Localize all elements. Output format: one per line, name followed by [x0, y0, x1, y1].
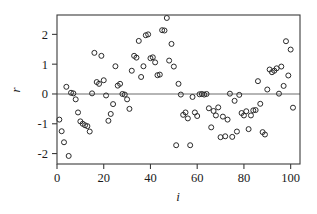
x-tick-label: 60 — [191, 171, 204, 185]
x-tick-label: 80 — [238, 171, 251, 185]
y-tick-label: -1 — [38, 117, 48, 131]
x-axis-title: i — [176, 189, 180, 204]
y-tick-label: 2 — [42, 28, 48, 42]
x-tick-label: 0 — [54, 171, 60, 185]
y-axis-title: r — [8, 87, 23, 93]
y-tick-label: -2 — [38, 147, 48, 161]
residual-scatter-figure: 020406080100 -2-1012 i r — [0, 0, 317, 214]
y-tick-label: 1 — [42, 58, 48, 72]
x-tick-label: 40 — [144, 171, 157, 185]
x-axis-tick-labels: 020406080100 — [54, 171, 300, 185]
y-tick-label: 0 — [42, 87, 48, 101]
y-axis-tick-marks — [52, 34, 57, 153]
x-axis-tick-marks — [57, 164, 291, 169]
x-tick-label: 20 — [97, 171, 110, 185]
x-tick-label: 100 — [281, 171, 300, 185]
y-axis-tick-labels: -2-1012 — [38, 28, 48, 161]
scatter-plot-svg: 020406080100 -2-1012 i r — [0, 0, 317, 214]
plot-panel-background — [57, 15, 300, 164]
